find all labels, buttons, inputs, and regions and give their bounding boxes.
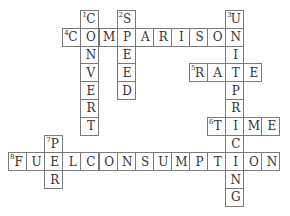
cell-letter: P — [230, 85, 240, 97]
crossword-cell[interactable]: R — [80, 99, 99, 118]
crossword-cell[interactable]: D — [117, 81, 136, 100]
cell-letter: T — [85, 120, 95, 132]
clue-number: 2 — [119, 12, 123, 19]
crossword-grid: 1CONVERT2SPEED3UNITPRICING4CMARISO5RAE6T… — [0, 0, 290, 216]
clue-number: 7 — [46, 137, 50, 144]
crossword-cell[interactable]: R — [225, 99, 244, 118]
crossword-cell[interactable]: R — [153, 28, 172, 47]
crossword-cell[interactable]: C — [80, 152, 99, 171]
cell-letter: I — [231, 120, 238, 132]
cell-letter: E — [85, 85, 96, 97]
cell-letter: U — [30, 156, 42, 168]
crossword-cell[interactable]: 8F — [8, 152, 27, 171]
cell-letter: M — [101, 31, 115, 43]
cell-letter: N — [120, 156, 133, 168]
crossword-cell[interactable]: T — [80, 117, 99, 136]
crossword-cell[interactable]: C — [225, 135, 244, 154]
cell-letter: M — [246, 120, 260, 132]
crossword-cell[interactable]: N — [117, 152, 136, 171]
crossword-cell[interactable]: O — [99, 152, 118, 171]
crossword-cell[interactable]: M — [99, 28, 118, 47]
cell-letter: U — [156, 156, 168, 168]
cell-letter: O — [211, 31, 223, 43]
cell-letter: A — [139, 31, 150, 43]
crossword-cell[interactable]: S — [135, 152, 154, 171]
crossword-cell[interactable]: 4C — [62, 28, 81, 47]
crossword-cell[interactable]: M — [171, 152, 190, 171]
crossword-cell[interactable]: E — [80, 81, 99, 100]
clue-number: 8 — [10, 154, 14, 161]
cell-letter: E — [266, 120, 277, 132]
crossword-cell[interactable]: E — [117, 46, 136, 65]
cell-letter: A — [211, 67, 222, 79]
cell-letter: O — [84, 31, 96, 43]
cell-letter: C — [84, 156, 95, 168]
cell-letter: E — [121, 49, 132, 61]
cell-letter: T — [230, 67, 240, 79]
crossword-cell[interactable]: I — [225, 46, 244, 65]
crossword-cell[interactable]: R — [44, 170, 63, 189]
crossword-cell[interactable]: N — [80, 46, 99, 65]
crossword-cell[interactable]: 7P — [44, 135, 63, 154]
crossword-cell[interactable]: V — [80, 63, 99, 82]
crossword-cell[interactable]: A — [135, 28, 154, 47]
crossword-cell[interactable]: N — [225, 28, 244, 47]
crossword-cell[interactable]: I — [225, 152, 244, 171]
cell-letter: R — [48, 174, 59, 186]
cell-letter: N — [265, 156, 278, 168]
crossword-cell[interactable]: A — [207, 63, 226, 82]
cell-letter: E — [247, 67, 258, 79]
crossword-cell[interactable]: E — [261, 117, 280, 136]
cell-letter: L — [67, 156, 77, 168]
cell-letter: P — [121, 31, 131, 43]
cell-letter: O — [247, 156, 259, 168]
crossword-cell[interactable]: U — [26, 152, 45, 171]
crossword-cell[interactable]: P — [189, 152, 208, 171]
cell-letter: V — [85, 67, 96, 79]
crossword-cell[interactable]: 3U — [225, 10, 244, 29]
cell-letter: R — [157, 31, 168, 43]
cell-letter: O — [102, 156, 114, 168]
crossword-cell[interactable]: O — [80, 28, 99, 47]
crossword-cell[interactable]: E — [243, 63, 262, 82]
cell-letter: S — [139, 156, 149, 168]
cell-letter: C — [229, 138, 240, 150]
crossword-cell[interactable]: I — [171, 28, 190, 47]
crossword-cell[interactable]: O — [243, 152, 262, 171]
crossword-cell[interactable]: N — [225, 170, 244, 189]
cell-letter: M — [173, 156, 187, 168]
cell-letter: R — [229, 102, 240, 114]
crossword-cell[interactable]: 5R — [189, 63, 208, 82]
crossword-cell[interactable]: E — [117, 63, 136, 82]
clue-number: 4 — [64, 30, 68, 37]
crossword-cell[interactable]: M — [243, 117, 262, 136]
crossword-cell[interactable]: P — [117, 28, 136, 47]
cell-letter: R — [84, 102, 95, 114]
crossword-cell[interactable]: I — [225, 117, 244, 136]
cell-letter: T — [212, 156, 222, 168]
crossword-cell[interactable]: T — [207, 152, 226, 171]
crossword-cell[interactable]: O — [207, 28, 226, 47]
crossword-cell[interactable]: T — [225, 63, 244, 82]
crossword-cell[interactable]: 2S — [117, 10, 136, 29]
cell-letter: I — [177, 31, 184, 43]
cell-letter: N — [84, 49, 97, 61]
crossword-cell[interactable]: U — [153, 152, 172, 171]
crossword-cell[interactable]: 6T — [207, 117, 226, 136]
crossword-cell[interactable]: P — [225, 81, 244, 100]
cell-letter: D — [120, 85, 132, 97]
crossword-cell[interactable]: N — [261, 152, 280, 171]
clue-number: 5 — [191, 65, 195, 72]
crossword-cell[interactable]: L — [62, 152, 81, 171]
cell-letter: S — [193, 31, 203, 43]
cell-letter: I — [231, 49, 238, 61]
crossword-cell[interactable]: G — [225, 188, 244, 207]
cell-letter: G — [229, 191, 241, 203]
clue-number: 1 — [82, 12, 86, 19]
crossword-cell[interactable]: E — [44, 152, 63, 171]
clue-number: 6 — [209, 119, 213, 126]
cell-letter: N — [228, 31, 241, 43]
cell-letter: E — [48, 156, 59, 168]
crossword-cell[interactable]: 1C — [80, 10, 99, 29]
crossword-cell[interactable]: S — [189, 28, 208, 47]
